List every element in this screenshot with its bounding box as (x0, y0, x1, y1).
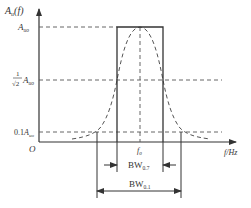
bw07-label: BW0.7 (128, 160, 150, 171)
peak-level-label: Auo (17, 22, 29, 33)
y-axis-label: Au(f) (4, 5, 24, 17)
tenth-level-label: 0.1Auo (14, 128, 34, 138)
x-axis-label: f/Hz (224, 148, 238, 157)
bw01-label: BW0.1 (129, 179, 151, 190)
half-power-level-label: Auo (22, 75, 34, 86)
half-power-frac-num: 1 (16, 70, 20, 78)
bandpass-response-diagram: Au(f) Auo 1 √2 Auo 0.1Auo O f/Hz f0 BW0.… (0, 0, 251, 208)
actual-response-curve (72, 27, 210, 139)
half-power-frac-den: √2 (12, 80, 20, 88)
center-frequency-label: f0 (137, 146, 142, 156)
origin-label: O (29, 144, 36, 154)
